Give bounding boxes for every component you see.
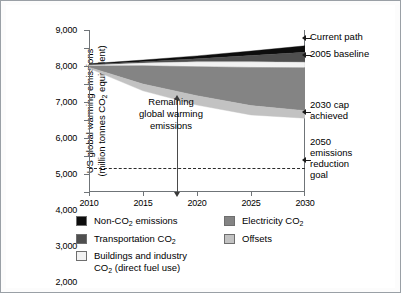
figure-canvas: US global warming emissions (million ton… — [6, 5, 395, 288]
legend-item[interactable]: Non-CO2 emissions — [76, 215, 236, 228]
cap-line-1: 2030 cap — [310, 99, 349, 110]
goal-line-2: emissions — [310, 147, 352, 158]
legend-label: Non-CO2 emissions — [94, 215, 178, 226]
legend-column-right: Electricity CO2Offsets — [224, 215, 364, 249]
x-tick-label: 2010 — [79, 199, 98, 208]
legend-swatch — [224, 234, 235, 244]
legend-label-line2: CO2 (direct fuel use) — [94, 262, 236, 275]
x-tick-label: 2025 — [241, 199, 260, 208]
legend-label: Transportation CO2 — [94, 233, 176, 244]
cap-line-2: achieved — [310, 110, 349, 121]
arrow-head-down-icon — [174, 192, 180, 197]
x-tick-label: 2020 — [187, 199, 206, 208]
legend-label: Buildings and industry — [94, 250, 187, 261]
remaining-emissions-label: Remaining global warming emissions — [115, 96, 227, 132]
annotation-2005-baseline: 2005 baseline — [310, 48, 369, 59]
goal-line-4: goal — [310, 169, 352, 180]
legend-swatch — [224, 216, 235, 226]
goal-reference-line — [89, 168, 305, 169]
figure-frame: US global warming emissions (million ton… — [0, 0, 401, 293]
goal-line-3: reduction — [310, 158, 352, 169]
y-tick-label: 7,000 — [55, 98, 77, 107]
legend-item[interactable]: Offsets — [224, 233, 364, 245]
goal-line-1: 2050 — [310, 136, 352, 147]
legend-label: Electricity CO2 — [242, 215, 303, 226]
remaining-line-3: emissions — [115, 120, 227, 132]
y-tick-label: 2,000 — [55, 278, 77, 287]
annotation-current-path: Current path — [310, 31, 363, 42]
y-tick-label: 5,000 — [55, 170, 77, 179]
y-tick-label: 6,000 — [55, 134, 77, 143]
remaining-line-1: Remaining — [115, 96, 227, 108]
y-tick-label: 8,000 — [55, 62, 77, 71]
legend-label: Offsets — [242, 233, 272, 244]
remaining-line-2: global warming — [115, 108, 227, 120]
plot-area: US global warming emissions (million ton… — [89, 30, 305, 192]
legend-item[interactable]: Buildings and industryCO2 (direct fuel u… — [76, 250, 236, 274]
x-tick-label: 2015 — [133, 199, 152, 208]
legend-swatch — [76, 234, 87, 244]
legend-item[interactable]: Electricity CO2 — [224, 215, 364, 228]
legend-item[interactable]: Transportation CO2 — [76, 233, 236, 246]
y-tick-label: 4,000 — [55, 206, 77, 215]
annotation-2050-goal: 2050 emissions reduction goal — [310, 136, 352, 180]
legend-swatch — [76, 251, 87, 261]
y-tick-label: 3,000 — [55, 242, 77, 251]
annotation-2030-cap: 2030 cap achieved — [310, 99, 349, 121]
legend-swatch — [76, 216, 87, 226]
legend-column-left: Non-CO2 emissionsTransportation CO2Build… — [76, 215, 236, 279]
x-tick-label: 2030 — [295, 199, 314, 208]
y-tick-label: 9,000 — [55, 26, 77, 35]
